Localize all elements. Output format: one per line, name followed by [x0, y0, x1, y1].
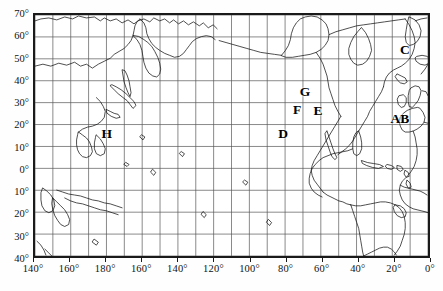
map-label-e: E	[314, 103, 323, 119]
map-label-ab: AB	[390, 111, 409, 127]
y-tick-label-11: 40°	[14, 253, 29, 264]
world-map-figure: 70°60°50°40°30°20°10°0°10°20°30°40°	[0, 0, 443, 291]
x-tick-label-10: 20°	[386, 263, 401, 274]
y-tick-label-8: 10°	[14, 186, 29, 197]
x-tick-mark-11	[430, 258, 431, 262]
x-tick-mark-0	[33, 258, 34, 262]
x-tick-mark-2	[105, 258, 106, 262]
x-tick-mark-8	[322, 258, 323, 262]
y-axis-labels: 70°60°50°40°30°20°10°0°10°20°30°40°	[0, 0, 33, 291]
map-label-h: H	[102, 126, 113, 142]
x-tick-mark-3	[141, 258, 142, 262]
map-label-f: F	[293, 102, 301, 118]
y-tick-label-7: 0°	[20, 163, 29, 174]
map-label-d: D	[278, 126, 288, 142]
x-tick-label-11: 0°	[425, 263, 435, 274]
x-tick-label-3: 160°	[131, 263, 152, 274]
x-tick-label-8: 60°	[314, 263, 329, 274]
y-tick-label-6: 10°	[14, 141, 29, 152]
y-tick-label-9: 20°	[14, 208, 29, 219]
y-tick-label-10: 30°	[14, 230, 29, 241]
x-tick-label-0: 140°	[23, 263, 44, 274]
x-tick-mark-5	[213, 258, 214, 262]
x-tick-mark-10	[394, 258, 395, 262]
x-tick-label-6: 100°	[239, 263, 260, 274]
y-tick-label-3: 40°	[14, 74, 29, 85]
y-tick-label-0: 70°	[14, 8, 29, 19]
y-tick-label-5: 20°	[14, 119, 29, 130]
x-tick-mark-7	[286, 258, 287, 262]
x-tick-label-1: 160°	[59, 263, 80, 274]
x-tick-label-7: 80°	[278, 263, 293, 274]
x-tick-mark-1	[69, 258, 70, 262]
x-tick-mark-4	[177, 258, 178, 262]
y-tick-label-4: 30°	[14, 97, 29, 108]
map-label-c: C	[400, 42, 410, 58]
x-tick-mark-6	[250, 258, 251, 262]
map-plot-area	[33, 13, 430, 258]
y-tick-label-1: 60°	[14, 30, 29, 41]
x-tick-label-4: 140°	[167, 263, 188, 274]
y-tick-label-2: 50°	[14, 52, 29, 63]
x-tick-label-9: 40°	[350, 263, 365, 274]
x-tick-label-5: 120°	[203, 263, 224, 274]
map-label-g: G	[300, 84, 311, 100]
x-tick-label-2: 180°	[95, 263, 116, 274]
coastline-layer	[35, 15, 428, 256]
x-tick-mark-9	[358, 258, 359, 262]
